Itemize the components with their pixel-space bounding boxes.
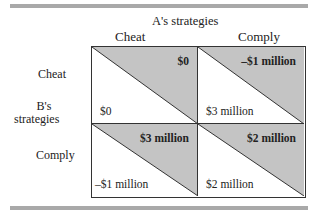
payoff-matrix: $0 $0 –$1 million $3 million $3 million … xyxy=(91,46,306,198)
cell-cheat-comply: –$1 million $3 million xyxy=(198,47,304,124)
bottom-rule xyxy=(10,206,308,210)
top-rule xyxy=(10,4,308,8)
a-payoff: $2 million xyxy=(247,132,296,144)
a-payoff: $0 xyxy=(178,55,190,67)
column-header-comply: Comply xyxy=(238,29,280,45)
a-payoff: –$1 million xyxy=(241,55,296,67)
cell-cheat-cheat: $0 $0 xyxy=(92,47,198,124)
b-payoff: $0 xyxy=(100,105,112,117)
b-payoff: $2 million xyxy=(206,178,254,190)
row-player-title-line2: strategies xyxy=(14,112,59,127)
cell-comply-cheat: $3 million –$1 million xyxy=(92,124,198,196)
a-payoff: $3 million xyxy=(140,132,189,144)
b-payoff: –$1 million xyxy=(95,178,148,190)
column-player-title: A's strategies xyxy=(152,14,218,29)
row-header-comply: Comply xyxy=(36,148,75,163)
column-header-cheat: Cheat xyxy=(115,29,145,45)
b-payoff: $3 million xyxy=(206,105,254,117)
row-header-cheat: Cheat xyxy=(38,67,66,82)
cell-comply-comply: $2 million $2 million xyxy=(198,124,304,196)
